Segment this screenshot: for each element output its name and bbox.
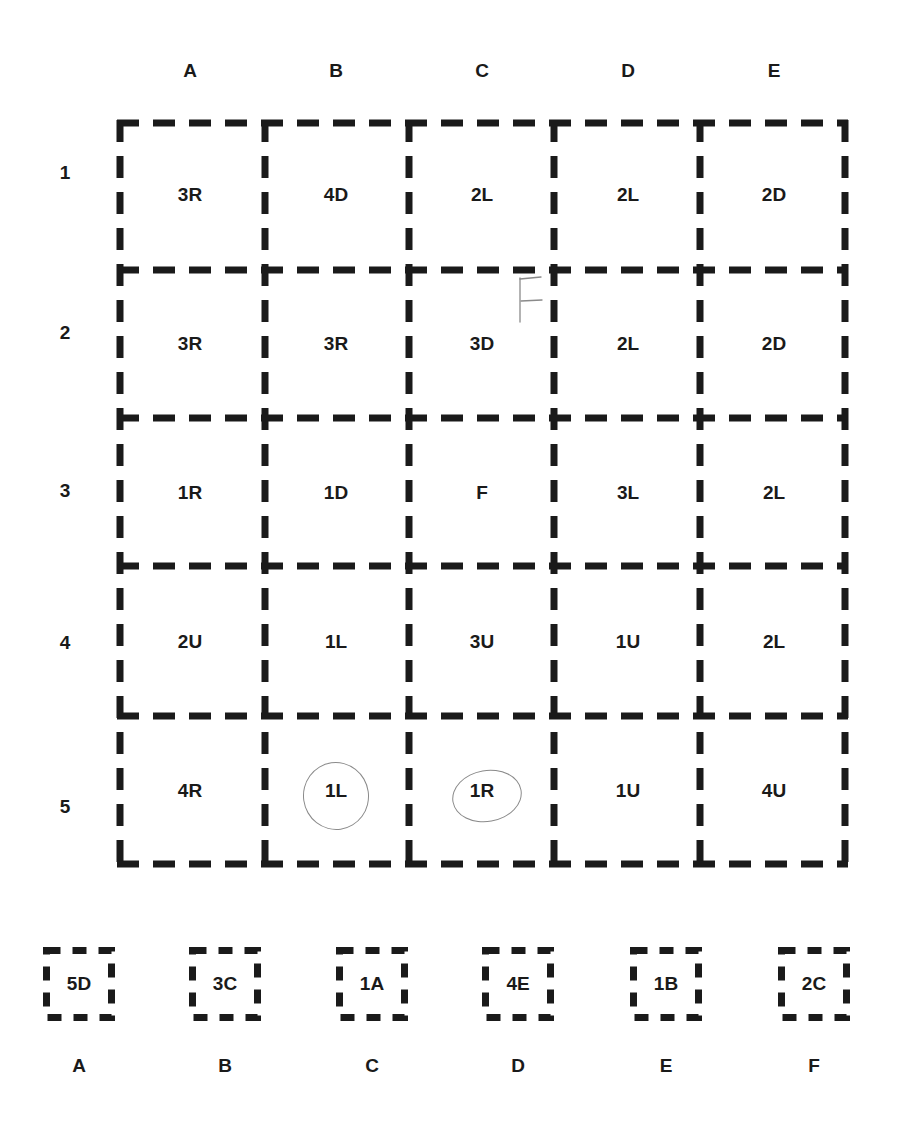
cell-value: 2D <box>762 184 786 206</box>
cell-value: 2L <box>763 482 785 504</box>
pencil-f-annotation-icon <box>517 276 543 324</box>
cell-value: 2D <box>762 333 786 355</box>
cell-value: 2U <box>178 631 202 653</box>
column-header-a: A <box>160 60 220 82</box>
option-d-box[interactable]: 4E <box>482 947 554 1021</box>
cell-value: 3R <box>178 333 202 355</box>
column-header-c: C <box>452 60 512 82</box>
option-e-box[interactable]: 1B <box>630 947 702 1021</box>
option-value: 1A <box>360 973 384 995</box>
cell-value: 2L <box>617 333 639 355</box>
cell-value: 3R <box>324 333 348 355</box>
puzzle-grid: 3R 4D 2L 2L 2D 3R 3R 3D 2L 2D 1R 1D F 3L… <box>117 120 848 866</box>
row-header-1: 1 <box>50 162 80 184</box>
row-header-2: 2 <box>50 322 80 344</box>
cell-value: 3U <box>470 631 494 653</box>
option-c-box[interactable]: 1A <box>336 947 408 1021</box>
cell-value: 1L <box>325 631 347 653</box>
cell-value: F <box>476 482 488 504</box>
row-header-4: 4 <box>50 632 80 654</box>
option-b-box[interactable]: 3C <box>189 947 261 1021</box>
cell-value: 1D <box>324 482 348 504</box>
option-a-box[interactable]: 5D <box>43 947 115 1021</box>
option-value: 4E <box>506 973 529 995</box>
cell-value: 3R <box>178 184 202 206</box>
cell-value: 4R <box>178 780 202 802</box>
cell-value: 2L <box>617 184 639 206</box>
column-header-e: E <box>744 60 804 82</box>
row-header-5: 5 <box>50 796 80 818</box>
cell-value: 2L <box>471 184 493 206</box>
cell-value: 1U <box>616 631 640 653</box>
option-f-box[interactable]: 2C <box>778 947 850 1021</box>
option-value: 5D <box>67 973 91 995</box>
cell-value: 3D <box>470 333 494 355</box>
column-header-d: D <box>598 60 658 82</box>
row-header-3: 3 <box>50 480 80 502</box>
cell-value: 4D <box>324 184 348 206</box>
option-b-label: B <box>189 1055 261 1077</box>
option-c-label: C <box>336 1055 408 1077</box>
option-value: 3C <box>213 973 237 995</box>
option-value: 2C <box>802 973 826 995</box>
cell-value: 4U <box>762 780 786 802</box>
column-header-b: B <box>306 60 366 82</box>
option-a-label: A <box>43 1055 115 1077</box>
option-e-label: E <box>630 1055 702 1077</box>
option-d-label: D <box>482 1055 554 1077</box>
cell-value: 1R <box>470 780 494 802</box>
cell-value: 1L <box>325 780 347 802</box>
cell-value: 1U <box>616 780 640 802</box>
option-value: 1B <box>654 973 678 995</box>
cell-value: 3L <box>617 482 639 504</box>
option-f-label: F <box>778 1055 850 1077</box>
cell-value: 1R <box>178 482 202 504</box>
cell-value: 2L <box>763 631 785 653</box>
